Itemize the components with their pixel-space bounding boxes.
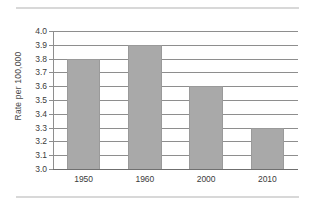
plot-area: 4.03.93.83.73.63.53.43.33.23.13.0 195019… xyxy=(53,31,298,169)
page-rule-bottom xyxy=(16,196,299,198)
bar xyxy=(128,45,161,169)
y-axis-tick-label: 3.6 xyxy=(35,82,47,91)
y-axis-tick-label: 3.3 xyxy=(35,123,47,132)
x-axis-tick-label: 2000 xyxy=(197,175,216,184)
y-axis-tick-label: 3.7 xyxy=(35,68,47,77)
y-axis-tick-label: 3.2 xyxy=(35,137,47,146)
y-axis-tick-label: 3.0 xyxy=(35,165,47,174)
bar xyxy=(189,86,222,169)
y-axis-tick-label: 3.5 xyxy=(35,96,47,105)
x-axis-tick-label: 1950 xyxy=(74,175,93,184)
bar xyxy=(67,59,100,169)
y-axis-tick-label: 3.9 xyxy=(35,41,47,50)
y-axis-title: Rate per 100,000 xyxy=(13,26,23,146)
bar-chart-figure: Rate per 100,000 4.03.93.83.73.63.53.43.… xyxy=(0,18,311,190)
y-axis-tick-label: 3.4 xyxy=(35,110,47,119)
x-axis-spine xyxy=(53,169,298,170)
bar xyxy=(251,128,284,169)
y-axis-tick-label: 3.8 xyxy=(35,54,47,63)
page: Rate per 100,000 4.03.93.83.73.63.53.43.… xyxy=(0,0,311,211)
y-axis-tick-label: 3.1 xyxy=(35,151,47,160)
y-axis-tick-label: 4.0 xyxy=(35,27,47,36)
x-axis-tick-label: 1960 xyxy=(135,175,154,184)
x-axis-tick-label: 2010 xyxy=(258,175,277,184)
bar-series xyxy=(53,31,298,169)
page-rule-top xyxy=(16,7,299,9)
